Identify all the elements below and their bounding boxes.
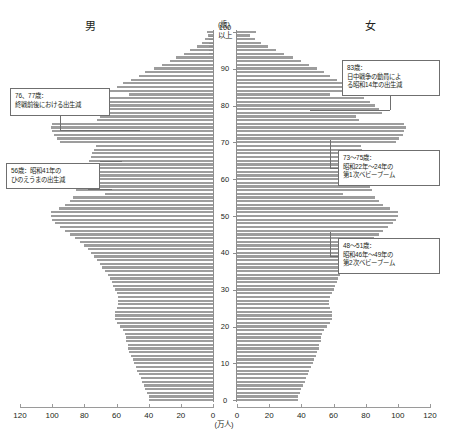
pyramid-bar	[51, 211, 213, 213]
annotation-line: 昭和46年～49年の	[343, 251, 436, 260]
pyramid-bar	[237, 230, 383, 232]
population-tick	[149, 404, 150, 408]
pyramid-bar	[170, 60, 213, 62]
pyramid-bar	[83, 174, 213, 176]
age-tick-label: 10	[213, 359, 237, 368]
age-minor-tick	[209, 53, 214, 54]
pyramid-bar	[237, 219, 396, 221]
population-tick	[334, 404, 335, 408]
pyramid-bar	[123, 329, 213, 331]
pyramid-bar	[91, 252, 213, 254]
population-tick	[213, 404, 214, 408]
pyramid-bar	[237, 141, 396, 143]
population-tick	[237, 404, 238, 408]
pyramid-bar	[237, 307, 330, 309]
pyramid-bar	[237, 226, 388, 228]
pyramid-bar	[134, 362, 213, 364]
population-tick	[52, 404, 53, 408]
leader-line	[310, 110, 390, 111]
pyramid-bar	[94, 149, 213, 151]
pyramid-bar	[112, 281, 213, 283]
pyramid-bar	[117, 86, 214, 88]
pyramid-bar	[117, 292, 214, 294]
pyramid-bar	[91, 156, 213, 158]
pyramid-bar	[97, 97, 213, 99]
pyramid-bar	[237, 90, 353, 92]
age-minor-tick	[209, 50, 214, 51]
pyramid-bar	[149, 399, 213, 401]
pyramid-bar	[117, 307, 214, 309]
pyramid-bar	[86, 167, 213, 169]
annotation-female-83: 83歳：日中戦争の動員による昭和14年の出生減	[342, 60, 440, 96]
pyramid-bar	[237, 285, 335, 287]
pyramid-bar	[237, 362, 313, 364]
pyramid-bar	[144, 384, 213, 386]
pyramid-bar	[60, 141, 213, 143]
pyramid-bar	[237, 93, 330, 95]
pyramid-bar	[237, 399, 298, 401]
pyramid-bar	[80, 241, 213, 243]
population-tick	[269, 404, 270, 408]
pyramid-bar	[237, 325, 327, 327]
pyramid-bar	[237, 53, 284, 55]
pyramid-bar	[100, 115, 213, 117]
pyramid-bar	[237, 377, 306, 379]
pyramid-bar	[237, 112, 382, 114]
pyramid-bar	[237, 56, 293, 58]
pyramid-bar	[118, 303, 213, 305]
pyramid-bar	[237, 296, 330, 298]
annotation-line: 日中戦争の動員によ	[347, 73, 436, 82]
pyramid-bar	[237, 204, 383, 206]
population-tick	[20, 404, 21, 408]
pyramid-bar	[110, 90, 213, 92]
population-tick-label: 80	[351, 411, 381, 421]
pyramid-bar	[237, 222, 393, 224]
pyramid-bar	[237, 333, 322, 335]
population-tick-label: 120	[5, 411, 35, 421]
leader-line	[330, 140, 331, 168]
pyramid-bar	[142, 381, 213, 383]
pyramid-bar	[65, 204, 213, 206]
annotation-line: 48～51歳：	[343, 242, 436, 251]
pyramid-bar	[128, 344, 213, 346]
pyramid-bar	[237, 75, 330, 77]
population-pyramid-figure: 男 女 (歳) (万人) 0102030405060708090100以上 02…	[0, 0, 450, 434]
population-tick	[84, 404, 85, 408]
pyramid-bar	[110, 277, 213, 279]
pyramid-bar	[237, 67, 317, 69]
leader-line	[60, 116, 61, 130]
pyramid-bar	[108, 274, 213, 276]
pyramid-bar	[237, 322, 330, 324]
pyramid-bar	[60, 226, 213, 228]
pyramid-bar	[115, 318, 213, 320]
pyramid-bar	[237, 336, 321, 338]
pyramid-bar	[57, 137, 213, 139]
annotation-male-76-77: 76、77歳：終戦前後における出生減	[10, 88, 110, 116]
population-tick	[301, 404, 302, 408]
pyramid-bar	[237, 370, 309, 372]
pyramid-bar	[237, 381, 305, 383]
male-bars-group	[20, 30, 213, 402]
pyramid-bar	[137, 370, 213, 372]
annotation-line: 76、77歳：	[15, 92, 106, 101]
pyramid-bar	[237, 274, 340, 276]
pyramid-bar	[237, 71, 324, 73]
pyramid-bar	[81, 178, 213, 180]
pyramid-bar	[115, 311, 213, 313]
population-tick-label: 100	[37, 411, 67, 421]
pyramid-bar	[237, 263, 348, 265]
pyramid-bar	[237, 207, 390, 209]
pyramid-bar	[145, 388, 213, 390]
annotation-line: 56歳：昭和41年の	[11, 167, 96, 176]
pyramid-bar	[237, 115, 356, 117]
pyramid-bar	[105, 193, 213, 195]
age-minor-tick	[209, 46, 214, 47]
pyramid-bar	[237, 145, 361, 147]
pyramid-bar	[237, 126, 406, 128]
pyramid-bar	[139, 373, 213, 375]
pyramid-bar	[237, 329, 324, 331]
age-tick-label: 20	[213, 322, 237, 331]
pyramid-bar	[237, 392, 300, 394]
pyramid-bar	[129, 93, 213, 95]
leader-line	[390, 96, 391, 110]
